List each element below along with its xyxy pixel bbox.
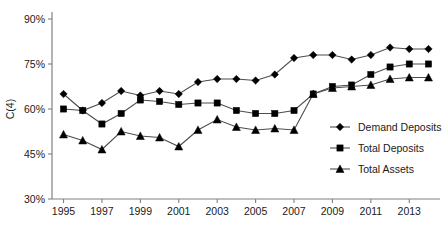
marker-square	[176, 101, 182, 107]
marker-diamond	[194, 78, 201, 85]
marker-diamond	[336, 123, 343, 130]
marker-diamond	[386, 44, 393, 51]
x-tick-label: 1999	[129, 205, 153, 217]
marker-square	[425, 61, 431, 67]
marker-diamond	[329, 51, 336, 58]
marker-square	[195, 100, 201, 106]
series-line	[64, 48, 429, 111]
marker-square	[60, 106, 66, 112]
marker-diamond	[233, 75, 240, 82]
marker-diamond	[252, 77, 259, 84]
marker-triangle	[60, 130, 68, 138]
marker-diamond	[348, 56, 355, 63]
x-tick-label: 2005	[244, 205, 268, 217]
marker-triangle	[194, 126, 202, 134]
marker-square	[387, 64, 393, 70]
y-tick-label: 75%	[24, 58, 45, 70]
marker-square	[272, 110, 278, 116]
x-tick-label: 2007	[282, 205, 306, 217]
marker-triangle	[232, 123, 240, 131]
marker-square	[253, 110, 259, 116]
marker-diamond	[98, 99, 105, 106]
x-tick-label: 2003	[206, 205, 230, 217]
marker-triangle	[213, 115, 221, 123]
legend-item-square[interactable]: Total Deposits	[330, 142, 424, 154]
marker-diamond	[156, 87, 163, 94]
legend-item-triangle[interactable]: Total Assets	[330, 163, 414, 175]
marker-square	[118, 110, 124, 116]
y-tick-label: 30%	[24, 193, 45, 205]
y-tick-label: 60%	[24, 103, 45, 115]
marker-square	[368, 71, 374, 77]
marker-diamond	[175, 90, 182, 97]
marker-square	[406, 61, 412, 67]
legend-label: Demand Deposits	[358, 121, 441, 133]
line-chart: 30%45%60%75%90%1995199719992001200320052…	[0, 0, 446, 232]
marker-square	[233, 107, 239, 113]
marker-diamond	[117, 87, 124, 94]
y-tick-label: 45%	[24, 148, 45, 160]
x-tick-label: 2013	[398, 205, 422, 217]
x-tick-label: 2011	[360, 205, 383, 217]
x-tick-label: 1995	[52, 205, 76, 217]
marker-square	[291, 107, 297, 113]
x-tick-label: 1997	[90, 205, 114, 217]
marker-square	[337, 145, 343, 151]
marker-square	[137, 97, 143, 103]
marker-square	[99, 121, 105, 127]
chart-container: 30%45%60%75%90%1995199719992001200320052…	[0, 0, 446, 232]
marker-diamond	[367, 51, 374, 58]
marker-diamond	[310, 51, 317, 58]
x-tick-label: 2001	[167, 205, 191, 217]
marker-triangle	[117, 127, 125, 135]
marker-square	[80, 107, 86, 113]
marker-diamond	[406, 45, 413, 52]
legend-label: Total Assets	[358, 163, 414, 175]
x-tick-label: 2009	[321, 205, 345, 217]
marker-diamond	[425, 45, 432, 52]
legend-label: Total Deposits	[358, 142, 424, 154]
legend-item-diamond[interactable]: Demand Deposits	[330, 121, 441, 133]
marker-square	[156, 98, 162, 104]
series-diamond	[60, 44, 432, 114]
marker-diamond	[213, 75, 220, 82]
y-axis-title: C(4)	[4, 99, 16, 119]
y-tick-label: 90%	[24, 13, 45, 25]
marker-square	[214, 100, 220, 106]
